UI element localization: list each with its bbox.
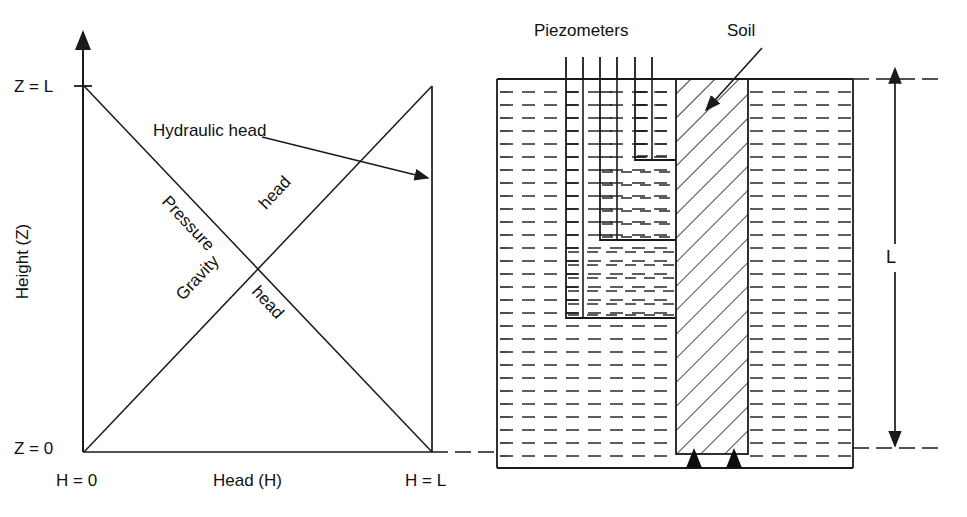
soil-column: [676, 79, 748, 454]
hydraulic-head-leader: [262, 137, 428, 178]
plot-series: [84, 86, 432, 452]
length-label: L: [886, 248, 896, 266]
y-axis-label: Height (Z): [14, 224, 31, 300]
x-tick-label-right: H = L: [405, 472, 446, 489]
water-fill-left: [500, 92, 676, 456]
piezometer-tubes: [566, 57, 652, 79]
x-axis-label: Head (H): [213, 472, 282, 489]
plot-axes: [74, 32, 432, 452]
water-fill-right: [750, 92, 851, 456]
soil-label: Soil: [727, 22, 755, 39]
piezometer-water: [568, 92, 674, 315]
diagram-canvas: [0, 0, 967, 517]
hydraulic-head-label: Hydraulic head: [153, 122, 266, 139]
y-tick-label-top: Z = L: [14, 78, 53, 95]
x-tick-label-left: H = 0: [56, 472, 97, 489]
piezometers-label: Piezometers: [534, 22, 628, 39]
figure-root: Z = L Z = 0 H = 0 H = L Head (H) Height …: [0, 0, 967, 517]
y-tick-label-bottom: Z = 0: [14, 440, 53, 457]
